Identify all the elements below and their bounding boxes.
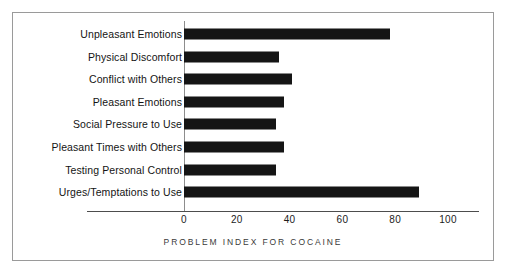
bar-row: Physical Discomfort [13, 46, 493, 68]
bar-category-label: Urges/Temptations to Use [59, 186, 182, 198]
bar [184, 187, 419, 198]
x-tick-label: 20 [231, 214, 243, 225]
x-axis-line [87, 211, 479, 212]
bar [184, 96, 284, 107]
bar-row: Conflict with Others [13, 68, 493, 90]
x-tick-label: 80 [389, 214, 401, 225]
bar-row: Pleasant Emotions [13, 91, 493, 113]
x-tick-label: 100 [439, 214, 457, 225]
bar-chart-plot-area: Unpleasant EmotionsPhysical DiscomfortCo… [13, 13, 493, 260]
bar-row: Testing Personal Control [13, 159, 493, 181]
bar [184, 51, 279, 62]
bar [184, 74, 292, 85]
bar-category-label: Conflict with Others [89, 73, 182, 85]
x-tick-label: 0 [181, 214, 187, 225]
chart-frame: Unpleasant EmotionsPhysical DiscomfortCo… [12, 12, 494, 261]
bar [184, 119, 276, 130]
bar [184, 29, 390, 40]
bar-category-label: Unpleasant Emotions [80, 28, 182, 40]
bar-category-label: Pleasant Times with Others [52, 141, 182, 153]
bar [184, 142, 284, 153]
bar-row: Urges/Temptations to Use [13, 181, 493, 203]
bar-category-label: Pleasant Emotions [93, 96, 182, 108]
bar-row: Social Pressure to Use [13, 113, 493, 135]
bar-row: Pleasant Times with Others [13, 136, 493, 158]
x-axis-tick-labels: 020406080100 [13, 214, 493, 230]
x-axis-title: PROBLEM INDEX FOR COCAINE [13, 237, 493, 247]
bar-category-label: Testing Personal Control [65, 164, 182, 176]
x-tick-label: 60 [337, 214, 349, 225]
bar-category-label: Social Pressure to Use [73, 118, 182, 130]
bar-row: Unpleasant Emotions [13, 23, 493, 45]
bar-category-label: Physical Discomfort [88, 51, 182, 63]
bar [184, 164, 276, 175]
x-tick-label: 40 [284, 214, 296, 225]
